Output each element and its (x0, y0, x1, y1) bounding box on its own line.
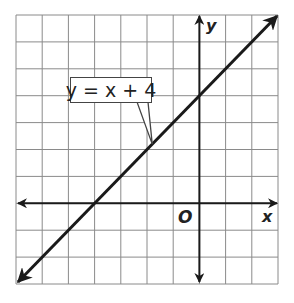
origin-label: O (178, 207, 192, 227)
x-axis-label: x (262, 207, 272, 226)
y-axis-label: y (206, 16, 216, 35)
equation-label: y = x + 4 (70, 77, 152, 103)
coordinate-plane (0, 0, 294, 303)
